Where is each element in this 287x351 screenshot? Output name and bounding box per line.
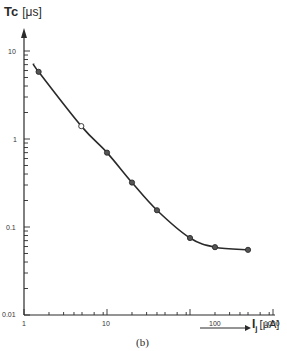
x-tick-label-10: 10 [102, 320, 110, 327]
x-axis-unit: [μA] [260, 318, 280, 330]
data-point-marker [129, 180, 134, 185]
fit-curve [33, 64, 248, 250]
y-axis-arrow-icon [21, 28, 27, 38]
figure-caption: (b) [136, 336, 149, 348]
x-axis-subscript: j [255, 324, 257, 333]
data-point-marker [79, 124, 84, 129]
data-point-marker [104, 150, 109, 155]
x-tick-label-100: 100 [209, 320, 221, 327]
data-point-marker [154, 208, 159, 213]
data-point-marker [187, 235, 192, 240]
y-tick-label-1: 1 [13, 136, 17, 143]
plot-area [0, 0, 287, 351]
x-tick-label-1: 1 [22, 320, 26, 327]
data-point-marker [36, 69, 41, 74]
y-tick-label-10: 10 [8, 48, 16, 55]
arrow-right-icon [245, 325, 251, 331]
y-tick-label-0.01: 0.01 [2, 311, 16, 318]
y-tick-label-0.1: 0.1 [6, 224, 16, 231]
data-point-marker [212, 245, 217, 250]
x-axis-label: Ij[μA] [252, 317, 279, 333]
data-point-marker [245, 247, 250, 252]
